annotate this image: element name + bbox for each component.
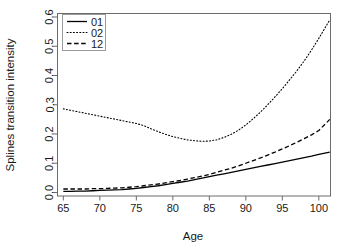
y-axis-tick-labels: 0.00.10.20.30.40.50.6 [44,9,56,200]
y-tick-label: 0.0 [44,185,56,200]
series-line-01 [63,152,329,191]
x-tick-label: 85 [203,202,215,214]
x-axis-ticks [63,196,318,201]
chart-container: 65707580859095100 0.00.10.20.30.40.50.6 … [0,0,348,251]
series-line-12 [63,119,329,189]
legend: 010212 [63,15,106,51]
x-tick-label: 95 [276,202,288,214]
x-axis-tick-labels: 65707580859095100 [57,202,328,214]
x-tick-label: 100 [310,202,328,214]
x-tick-label: 75 [130,202,142,214]
y-tick-label: 0.3 [44,97,56,112]
splines-transition-intensity-chart: 65707580859095100 0.00.10.20.30.40.50.6 … [0,0,348,251]
x-tick-label: 70 [94,202,106,214]
y-tick-label: 0.5 [44,39,56,54]
legend-label-12: 12 [91,38,103,50]
x-tick-label: 90 [240,202,252,214]
y-tick-label: 0.6 [44,9,56,24]
x-tick-label: 80 [167,202,179,214]
y-tick-label: 0.2 [44,126,56,141]
x-axis-title: Age [183,230,203,242]
y-axis-title: Splines transition intensity [4,38,16,171]
y-tick-label: 0.4 [44,68,56,83]
x-tick-label: 65 [57,202,69,214]
y-tick-label: 0.1 [44,156,56,171]
